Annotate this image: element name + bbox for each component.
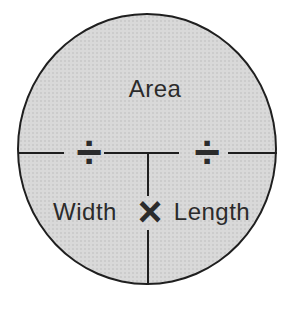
divide-icon-right: ÷ — [194, 129, 219, 175]
length-label: Length — [174, 198, 250, 226]
width-label: Width — [53, 198, 117, 226]
divide-icon-left: ÷ — [76, 129, 101, 175]
formula-circle-diagram: Area Width Length ÷ ÷ × — [0, 0, 295, 309]
horizontal-divider-line-middle — [104, 152, 179, 155]
vertical-divider-line-bottom — [147, 230, 150, 285]
multiply-icon: × — [138, 191, 163, 233]
horizontal-divider-line-right — [228, 152, 277, 155]
horizontal-divider-line-left — [18, 152, 64, 155]
area-label: Area — [129, 75, 182, 103]
